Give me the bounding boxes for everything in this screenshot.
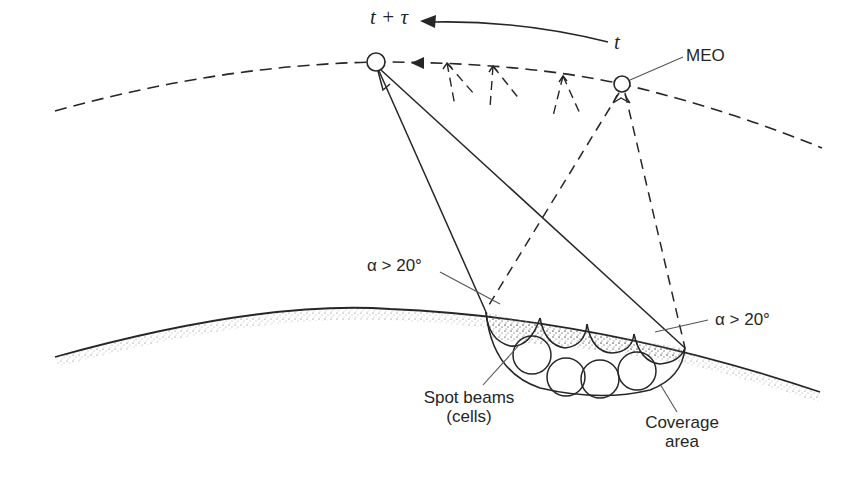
orbit-path bbox=[55, 62, 822, 148]
label-satellite-meo: MEO bbox=[686, 46, 725, 65]
label-spot-beams-line1: Spot beams bbox=[414, 388, 524, 407]
label-time-now: t bbox=[614, 33, 620, 52]
label-coverage-line1: Coverage bbox=[632, 413, 732, 432]
satellite-future-icon bbox=[367, 53, 385, 71]
label-coverage-line2: area bbox=[632, 432, 732, 451]
label-spot-beams-line2: (cells) bbox=[414, 407, 524, 426]
diagram-canvas: t + τ t MEO α > 20° α > 20° Spot beams (… bbox=[0, 0, 860, 480]
label-coverage-area: Coverage area bbox=[632, 413, 732, 451]
label-elevation-right: α > 20° bbox=[715, 310, 770, 329]
label-spot-beams: Spot beams (cells) bbox=[414, 388, 524, 426]
motion-arrow-icon bbox=[420, 15, 608, 42]
beam-lines-now bbox=[489, 93, 685, 348]
intermediate-beams bbox=[447, 63, 581, 116]
satellite-now-icon bbox=[614, 76, 630, 92]
label-elevation-left: α > 20° bbox=[367, 256, 422, 275]
label-time-future: t + τ bbox=[370, 8, 408, 27]
orbit-direction-arrow-icon bbox=[411, 57, 424, 69]
beam-lines-future bbox=[378, 70, 685, 348]
